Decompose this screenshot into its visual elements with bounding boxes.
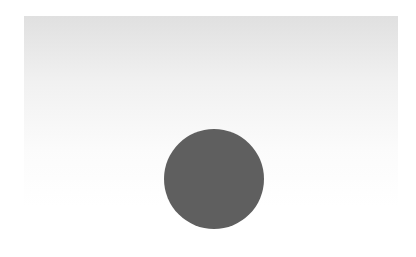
canvas-stage — [0, 0, 416, 257]
dark-circle — [164, 129, 264, 229]
